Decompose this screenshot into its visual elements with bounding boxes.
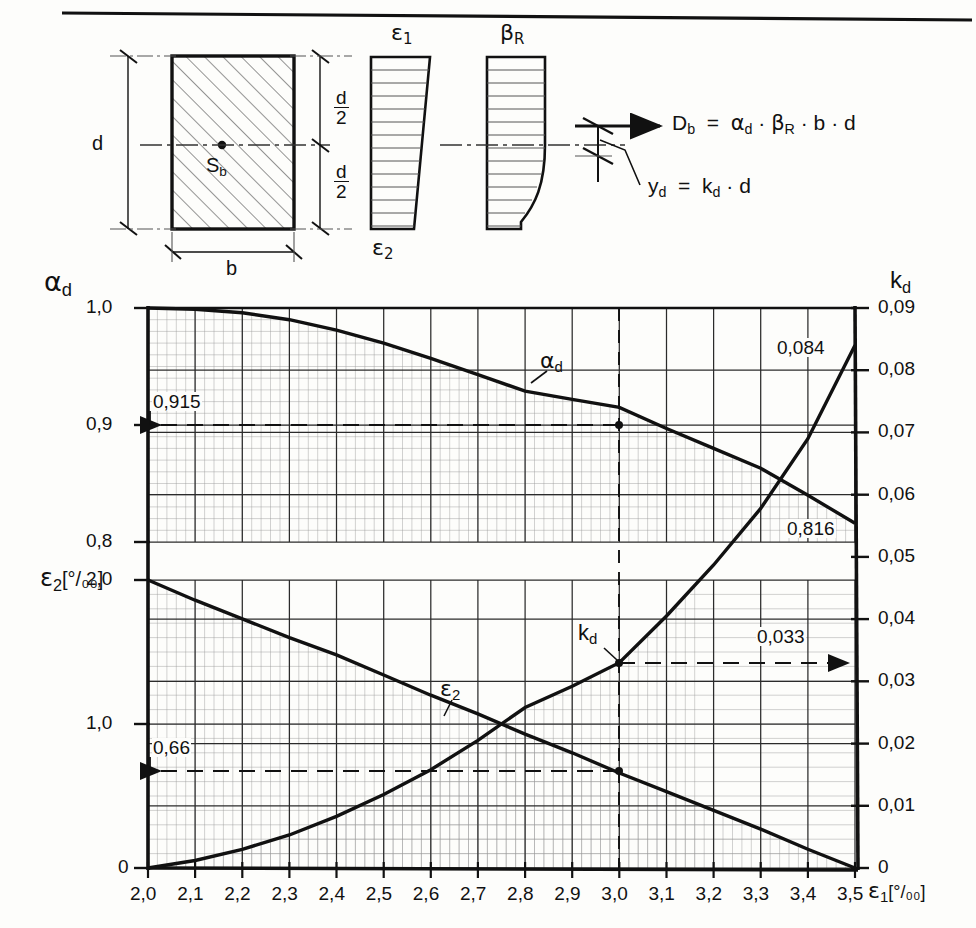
axis-tick-label: 0,01 <box>878 795 915 814</box>
axis-tick-label: 2,9 <box>554 884 580 903</box>
axis-tick-label: 1,0 <box>86 713 112 732</box>
alpha-curve-label: αd <box>540 350 563 375</box>
technical-chart-figure <box>0 0 976 928</box>
annotation-eps2-read: 0,66 <box>152 738 191 757</box>
axis-tick-label: 3,0 <box>601 884 627 903</box>
annotation-alpha-end: 0,816 <box>786 519 836 538</box>
axis-tick-label: 2,7 <box>460 884 486 903</box>
axis-tick-label: 2,5 <box>366 884 392 903</box>
figure-page: d b Sb d2 d2 ε1 ε2 βR Db = αd · βR · b ·… <box>0 0 976 928</box>
kd-curve-label: kd <box>578 622 597 647</box>
lever-arm-formula: yd = kd · d <box>648 175 751 199</box>
axis-tick-label: 3,2 <box>696 884 722 903</box>
half-depth-top-label: d2 <box>334 88 349 127</box>
cross-section-diagram <box>110 50 352 262</box>
axis-tick-label: 3,5 <box>837 884 863 903</box>
axis-tick-label: 0,07 <box>878 421 915 440</box>
axis-tick-label: 2,0 <box>86 569 112 588</box>
axis-tick-label: 0,02 <box>878 733 915 752</box>
top-rule <box>62 13 972 20</box>
axis-tick-label: 0,9 <box>86 414 112 433</box>
axis-tick-label: 0,8 <box>86 531 112 550</box>
kd-axis-name: kd <box>890 268 911 295</box>
x-axis-name: ε1[°/₀₀] <box>868 880 925 905</box>
section-depth-label: d <box>92 133 103 153</box>
axis-tick-label: 2,4 <box>319 884 345 903</box>
lever-arm-leader <box>600 140 640 185</box>
strain-top-label: ε1 <box>391 22 412 47</box>
alpha-read-point <box>615 421 623 429</box>
annotation-alpha-read: 0,915 <box>152 392 202 411</box>
axis-tick-label: 2,2 <box>224 884 250 903</box>
axis-tick-label: 3,4 <box>790 884 816 903</box>
annotation-kd-read: 0,033 <box>756 627 806 646</box>
axis-tick-label: 1,0 <box>86 297 112 316</box>
section-width-label: b <box>226 258 237 278</box>
annotation-kd-end: 0,084 <box>776 338 826 357</box>
chart-frame <box>148 306 858 870</box>
eps2-curve-label: ε2 <box>440 678 460 703</box>
axis-tick-label: 0 <box>878 857 889 876</box>
axis-tick-label: 0,08 <box>878 359 915 378</box>
strain-distribution-block <box>371 57 430 229</box>
kd-curve <box>148 345 855 868</box>
axis-tick-label: 0,03 <box>878 670 915 689</box>
axis-tick-label: 3,3 <box>743 884 769 903</box>
compression-force-formula: Db = αd · βR · b · d <box>672 112 856 136</box>
axis-tick-label: 0,09 <box>878 297 915 316</box>
axis-tick-label: 2,1 <box>177 884 203 903</box>
axis-tick-label: 2,0 <box>130 884 156 903</box>
strain-bottom-label: ε2 <box>372 237 393 262</box>
chart-plot-area <box>134 306 869 878</box>
axis-tick-label: 3,1 <box>648 884 674 903</box>
axis-tick-label: 0,05 <box>878 546 915 565</box>
axis-tick-label: 0,06 <box>878 484 915 503</box>
centroid-label: Sb <box>206 155 227 178</box>
major-grid <box>148 308 855 868</box>
half-depth-bottom-label: d2 <box>334 162 349 201</box>
axis-tick-label: 0,04 <box>878 608 915 627</box>
alpha-d-curve <box>148 308 855 523</box>
kd-label-leader <box>604 648 617 660</box>
axis-tick-label: 2,3 <box>271 884 297 903</box>
stress-block-label: βR <box>500 22 524 47</box>
axis-tick-label: 2,6 <box>413 884 439 903</box>
alpha-axis-name: αd <box>44 268 72 300</box>
axis-tick-label: 0 <box>118 857 129 876</box>
eps2-read-point <box>615 767 623 775</box>
axis-tick-label: 2,8 <box>507 884 533 903</box>
